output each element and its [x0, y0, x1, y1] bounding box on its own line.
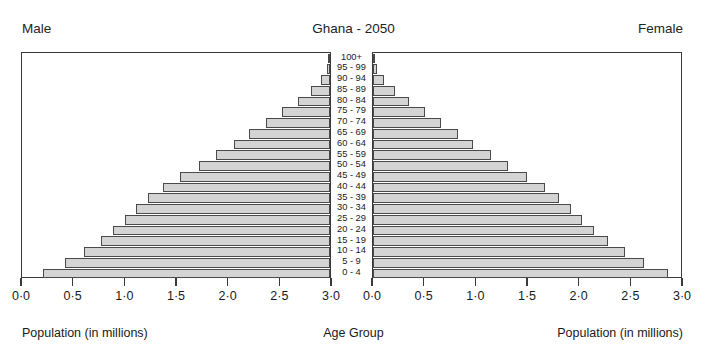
female-plot-panel	[372, 52, 682, 278]
age-group-label: 55 - 59	[331, 150, 372, 159]
male-plot-panel	[21, 52, 331, 278]
bar	[234, 140, 330, 150]
bar	[373, 193, 559, 203]
bar	[328, 54, 330, 64]
axis-tick	[124, 278, 125, 286]
bar	[101, 236, 330, 246]
age-group-label: 45 - 49	[331, 171, 372, 180]
axis-tick	[423, 278, 424, 286]
axis-tick-label: 1·0	[104, 288, 144, 304]
bar	[216, 150, 330, 160]
age-group-label: 0 - 4	[331, 268, 372, 277]
axis-tick-label: 2·0	[208, 288, 248, 304]
axis-tick	[578, 278, 579, 286]
bar	[373, 64, 377, 74]
bar	[113, 226, 330, 236]
bar	[321, 75, 330, 85]
age-group-label: 40 - 44	[331, 182, 372, 191]
bar	[180, 172, 330, 182]
bar	[373, 118, 441, 128]
age-group-axis: 0 - 45 - 910 - 1415 - 1920 - 2425 - 2930…	[331, 52, 372, 278]
bar	[373, 215, 582, 225]
bar	[266, 118, 330, 128]
axis-tick-label: 2·0	[559, 288, 599, 304]
axis-tick-label: 1·5	[156, 288, 196, 304]
population-pyramid-chart: Male Ghana - 2050 Female 0 - 45 - 910 - …	[0, 0, 707, 355]
age-group-label: 5 - 9	[331, 257, 372, 266]
age-group-label: 10 - 14	[331, 246, 372, 255]
axis-tick-label: 0·5	[404, 288, 444, 304]
age-group-label: 15 - 19	[331, 236, 372, 245]
bar	[373, 97, 409, 107]
axis-tick-label: 3·0	[311, 288, 351, 304]
axis-tick-label: 1·0	[455, 288, 495, 304]
female-bar-group	[373, 53, 681, 277]
bar	[327, 64, 330, 74]
age-group-label: 95 - 99	[331, 63, 372, 72]
age-group-label: 80 - 84	[331, 96, 372, 105]
age-group-label: 35 - 39	[331, 193, 372, 202]
bar	[373, 258, 644, 268]
female-x-tick-labels: 0·00·51·01·52·02·53·0	[372, 288, 682, 304]
age-group-label: 65 - 69	[331, 128, 372, 137]
axis-tick-label: 2·5	[610, 288, 650, 304]
axis-tick	[630, 278, 631, 286]
bar	[199, 161, 330, 171]
axis-tick	[227, 278, 228, 286]
bar	[373, 129, 458, 139]
axis-tick	[279, 278, 280, 286]
bar	[373, 247, 625, 257]
age-group-label: 20 - 24	[331, 225, 372, 234]
axis-tick-label: 0·5	[53, 288, 93, 304]
axis-tick	[475, 278, 476, 286]
bar	[373, 107, 425, 117]
bar	[373, 236, 608, 246]
bar	[125, 215, 330, 225]
axis-tick	[20, 278, 21, 286]
female-x-axis	[372, 278, 682, 287]
bar	[298, 97, 330, 107]
bar	[373, 86, 395, 96]
axis-tick-label: 0·0	[1, 288, 41, 304]
age-group-label: 85 - 89	[331, 85, 372, 94]
bar	[373, 140, 473, 150]
axis-tick	[681, 278, 682, 286]
male-x-axis	[21, 278, 331, 287]
axis-tick	[72, 278, 73, 286]
bar	[65, 258, 330, 268]
axis-tick	[371, 278, 372, 286]
bar	[373, 226, 594, 236]
male-x-tick-labels: 3·02·52·01·51·00·50·0	[21, 288, 331, 304]
bar	[282, 107, 330, 117]
bar	[373, 183, 545, 193]
age-group-label: 60 - 64	[331, 139, 372, 148]
bar	[373, 172, 527, 182]
axis-tick-label: 3·0	[662, 288, 702, 304]
age-group-label: 75 - 79	[331, 106, 372, 115]
age-group-label: 50 - 54	[331, 160, 372, 169]
bar	[84, 247, 330, 257]
bar	[373, 54, 375, 64]
bar	[373, 161, 508, 171]
bar	[373, 204, 571, 214]
axis-tick	[330, 278, 331, 286]
axis-tick	[175, 278, 176, 286]
axis-tick	[526, 278, 527, 286]
bar	[163, 183, 330, 193]
age-group-label: 30 - 34	[331, 203, 372, 212]
age-group-label: 100+	[331, 53, 372, 62]
axis-tick-label: 2·5	[259, 288, 299, 304]
bar	[373, 150, 491, 160]
age-group-label: 25 - 29	[331, 214, 372, 223]
bar	[249, 129, 330, 139]
female-axis-title: Population (in millions)	[557, 324, 683, 342]
male-bar-group	[22, 53, 330, 277]
age-group-label: 90 - 94	[331, 74, 372, 83]
axis-tick-label: 1·5	[507, 288, 547, 304]
bar	[148, 193, 330, 203]
female-side-label: Female	[638, 20, 683, 38]
bar	[136, 204, 330, 214]
bar	[311, 86, 330, 96]
bar	[373, 75, 384, 85]
axis-tick-label: 0·0	[352, 288, 392, 304]
